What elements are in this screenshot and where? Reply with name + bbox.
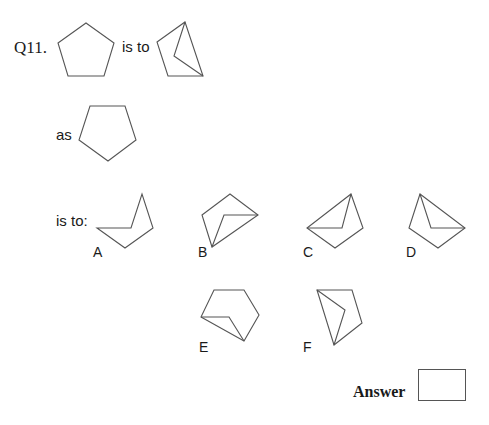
answer-label: Answer <box>353 383 405 401</box>
option-e-label: E <box>199 339 208 355</box>
option-c-figure[interactable] <box>307 194 363 248</box>
source-transformed-figure <box>157 22 203 76</box>
option-a-label: A <box>93 244 102 260</box>
option-e-figure[interactable] <box>201 290 259 341</box>
option-f-figure[interactable] <box>317 290 362 345</box>
target-pentagon-figure <box>79 106 136 161</box>
answer-input-box[interactable] <box>418 369 466 401</box>
option-d-label: D <box>406 244 416 260</box>
option-b-label: B <box>198 244 207 260</box>
option-c-label: C <box>303 244 313 260</box>
option-f-label: F <box>303 339 312 355</box>
figures-canvas <box>0 0 489 425</box>
option-d-figure[interactable] <box>409 194 465 248</box>
option-b-figure[interactable] <box>202 194 258 247</box>
source-pentagon-figure <box>58 23 114 76</box>
option-a-figure[interactable] <box>97 194 153 248</box>
